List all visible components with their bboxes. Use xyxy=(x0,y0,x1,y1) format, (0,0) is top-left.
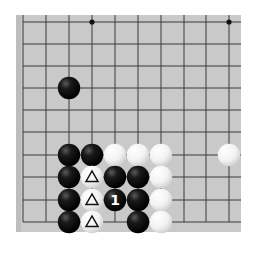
black-stone[interactable] xyxy=(58,189,80,211)
white-stone[interactable] xyxy=(81,189,103,211)
black-stone[interactable] xyxy=(127,189,149,211)
star-point xyxy=(89,19,94,24)
black-stone[interactable] xyxy=(127,211,149,233)
black-stone[interactable] xyxy=(58,144,80,166)
white-stone[interactable] xyxy=(150,166,172,188)
star-point xyxy=(226,19,231,24)
white-stone[interactable] xyxy=(81,211,103,233)
white-stone[interactable] xyxy=(150,144,172,166)
board-svg: 1 xyxy=(0,0,255,254)
black-stone[interactable]: 1 xyxy=(104,189,126,211)
white-stone[interactable] xyxy=(104,144,126,166)
white-stone[interactable] xyxy=(127,144,149,166)
white-stone[interactable] xyxy=(81,166,103,188)
black-stone[interactable] xyxy=(58,211,80,233)
black-stone[interactable] xyxy=(81,144,103,166)
white-stone[interactable] xyxy=(218,144,240,166)
move-number-label: 1 xyxy=(110,192,120,208)
black-stone[interactable] xyxy=(127,166,149,188)
black-stone[interactable] xyxy=(58,77,80,99)
black-stone[interactable] xyxy=(104,166,126,188)
white-stone[interactable] xyxy=(150,189,172,211)
black-stone[interactable] xyxy=(58,166,80,188)
white-stone[interactable] xyxy=(150,211,172,233)
